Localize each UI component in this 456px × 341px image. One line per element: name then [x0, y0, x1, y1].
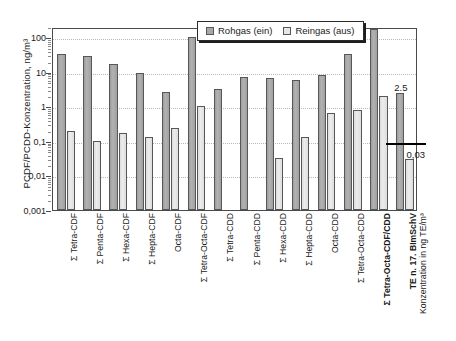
- y-axis-tick-label: 100: [31, 33, 46, 43]
- y-axis-minor-tick: [48, 115, 51, 116]
- x-axis-category-label: Σ Tetra-CDF: [69, 213, 79, 261]
- x-axis-label-text: Σ Hexa-CDF: [121, 213, 131, 262]
- grid-line: [53, 143, 416, 144]
- y-axis-minor-tick: [48, 125, 51, 126]
- grid-line: [53, 177, 416, 178]
- x-axis-label-text: Σ Tetra-Octa-CDD: [356, 213, 366, 283]
- y-axis-minor-tick: [48, 91, 51, 92]
- y-axis-minor-tick: [48, 42, 51, 43]
- y-axis-minor-tick: [48, 56, 51, 57]
- y-axis-minor-tick: [48, 180, 51, 181]
- bar-rohgas: [240, 77, 248, 210]
- bar-rohgas: [370, 29, 378, 210]
- y-axis-minor-tick: [48, 113, 51, 114]
- bar-rohgas: [344, 54, 352, 210]
- y-axis-tick-label: 0,1: [33, 137, 46, 147]
- y-axis-minor-tick: [48, 111, 51, 112]
- legend-item-rohgas: Rohgas (ein): [206, 25, 272, 36]
- y-axis-minor-tick: [48, 160, 51, 161]
- chart-legend: Rohgas (ein) Reingas (aus): [197, 21, 364, 41]
- x-axis-label-text: Σ Tetra-CDF: [69, 213, 79, 261]
- y-axis-minor-tick: [48, 147, 51, 148]
- legend-label-reingas: Reingas (aus): [295, 25, 354, 36]
- x-axis-label-text: Σ Penta-CDD: [252, 213, 262, 265]
- bar-rohgas: [318, 75, 326, 210]
- x-axis-label-text: Σ Tetra-Octa-CDF: [199, 213, 209, 282]
- y-axis-minor-tick: [48, 150, 51, 151]
- x-axis-label-text: Octa-CDF: [173, 213, 183, 252]
- bar-reingas: [275, 158, 283, 210]
- y-axis-minor-tick: [48, 166, 51, 167]
- x-axis-category-label: Σ Tetra-CDD: [225, 213, 235, 262]
- bar-reingas: [301, 137, 309, 210]
- bar-rohgas: [162, 92, 170, 210]
- x-axis-category-label: Σ Hexa-CDD: [278, 213, 288, 263]
- y-axis-minor-tick: [48, 74, 51, 75]
- bar-reingas: [145, 137, 153, 210]
- x-axis-category-label: Σ Penta-CDF: [95, 213, 105, 264]
- x-axis-category-label: Σ Hexa-CDF: [121, 213, 131, 262]
- x-axis-category-sublabel: Konzentration in ng TE/m³: [418, 213, 428, 314]
- x-axis-label-text: Octa-CDD: [330, 213, 340, 253]
- bar-reingas: [353, 110, 361, 210]
- y-axis-minor-tick: [48, 49, 51, 50]
- y-axis-minor-tick: [48, 187, 51, 188]
- bar-rohgas: [188, 37, 196, 210]
- x-axis-category-label: Octa-CDD: [330, 213, 340, 253]
- bar-rohgas: [266, 78, 274, 210]
- x-axis-label-text: Σ Hepta-CDD: [304, 213, 314, 266]
- x-axis-category-label: TE n. 17. BImSchV: [408, 213, 418, 289]
- y-axis-minor-tick: [48, 46, 51, 47]
- y-axis-tick-label: 0,001: [23, 206, 46, 216]
- y-axis-minor-tick: [48, 78, 51, 79]
- x-axis-label-text: Σ Tetra-CDD: [225, 213, 235, 262]
- y-axis-minor-tick: [48, 201, 51, 202]
- bar-rohgas: [214, 89, 222, 210]
- x-axis-category-label: Σ Tetra-Octa-CDD: [356, 213, 366, 283]
- y-axis-minor-tick: [48, 152, 51, 153]
- bar-reingas: [327, 113, 335, 210]
- bar-reingas: [93, 141, 101, 210]
- y-axis-tick-label: 0,01: [28, 171, 46, 181]
- x-axis-label-text: Σ Hexa-CDD: [278, 213, 288, 263]
- y-axis-minor-tick: [48, 178, 51, 179]
- y-axis-minor-tick: [48, 52, 51, 53]
- limit-line-grenzwert: [386, 143, 426, 145]
- y-axis-tick-label: 10: [36, 68, 46, 78]
- x-axis-category-label: Σ Hepta-CDD: [304, 213, 314, 266]
- y-axis-minor-tick: [48, 156, 51, 157]
- x-axis-label-text: Σ Tetra-Octa-CDF/CDD: [382, 213, 392, 305]
- y-axis-minor-tick: [48, 118, 51, 119]
- y-axis-minor-tick: [48, 97, 51, 98]
- legend-item-reingas: Reingas (aus): [283, 25, 354, 36]
- legend-label-rohgas: Rohgas (ein): [218, 25, 272, 36]
- y-axis-tick-mark: [46, 211, 51, 212]
- x-axis-category-label: Octa-CDF: [173, 213, 183, 252]
- y-axis-minor-tick: [48, 109, 51, 110]
- chart-container: PCDF/PCDD-Konzentration, ng/m³ 1001010,1…: [0, 0, 456, 341]
- x-axis-label-text: Σ Hepta-CDF: [147, 213, 157, 265]
- y-axis-minor-tick: [48, 28, 51, 29]
- grid-line: [53, 108, 416, 109]
- bar-reingas: [67, 131, 75, 210]
- bar-reingas: [197, 106, 205, 210]
- legend-swatch-rohgas-icon: [206, 27, 214, 35]
- y-axis-minor-tick: [48, 182, 51, 183]
- bar-rohgas: [83, 56, 91, 210]
- bar-reingas: [171, 128, 179, 210]
- bar-rohgas: [396, 93, 404, 210]
- x-axis-label-text: Σ Penta-CDF: [95, 213, 105, 264]
- y-axis-minor-tick: [48, 132, 51, 133]
- bar-reingas: [119, 133, 127, 210]
- y-axis-minor-tick: [48, 40, 51, 41]
- y-axis-minor-tick: [48, 144, 51, 145]
- bar-reingas: [405, 159, 413, 210]
- legend-swatch-reingas-icon: [283, 27, 291, 35]
- x-axis-category-label: Σ Hepta-CDF: [147, 213, 157, 265]
- y-axis-minor-tick: [48, 81, 51, 82]
- y-axis-minor-tick: [48, 190, 51, 191]
- x-axis-category-label: Σ Penta-CDD: [252, 213, 262, 265]
- y-axis-tick-labels: 1001010,10,010,001: [0, 28, 52, 211]
- grid-line: [53, 74, 416, 75]
- x-axis-category-labels: Σ Tetra-CDFΣ Penta-CDFΣ Hexa-CDFΣ Hepta-…: [52, 213, 417, 341]
